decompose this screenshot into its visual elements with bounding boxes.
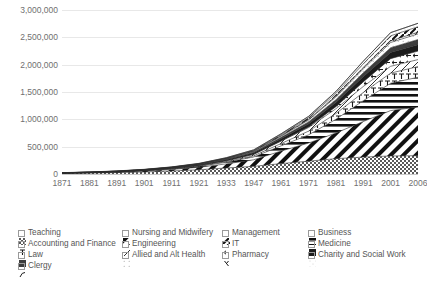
legend-item[interactable]: Management [222, 228, 308, 238]
legend-item[interactable]: Engineering [122, 239, 222, 249]
legend-item[interactable]: IT [222, 239, 308, 249]
legend-swatch-icon [222, 241, 229, 248]
legend-swatch-icon [18, 230, 25, 237]
legend-swatch-icon [18, 252, 25, 259]
legend-label: IT [232, 239, 239, 249]
x-axis-tick: 2006 [409, 178, 427, 188]
stacked-areas [62, 10, 418, 174]
legend-column: BusinessMedicineCharity and Social Work [308, 228, 412, 261]
legend-label: Pharmacy [232, 250, 269, 260]
legend-item[interactable]: Teaching [18, 228, 122, 238]
legend-swatch-icon [308, 241, 315, 248]
x-axis-tick: 1947 [244, 178, 263, 188]
legend-label: Engineering [132, 239, 176, 249]
chart-legend: TeachingAccounting and FinanceLawClergyN… [18, 228, 418, 288]
y-axis-tick: 3,000,000 [20, 6, 58, 15]
legend-label: Medicine [318, 239, 351, 249]
legend-label: Business [318, 228, 351, 238]
x-axis-tick: 1901 [135, 178, 154, 188]
legend-item[interactable]: Medicine [308, 239, 412, 249]
legend-item[interactable]: Business [308, 228, 412, 238]
x-axis-tick: 1933 [217, 178, 236, 188]
x-axis-tick: 1991 [354, 178, 373, 188]
legend-item[interactable]: Nursing and Midwifery [122, 228, 222, 238]
x-axis-tick: 1961 [272, 178, 291, 188]
y-axis: 0500,0001,000,0001,500,0002,000,0002,500… [0, 0, 62, 176]
legend-swatch-icon [122, 241, 129, 248]
x-axis-tick: 1911 [162, 178, 180, 188]
y-axis-tick: 2,500,000 [20, 33, 58, 42]
legend-column: TeachingAccounting and FinanceLawClergy [18, 228, 122, 272]
legend-swatch-icon [308, 230, 315, 237]
x-axis: 1871188118911901191119211933194719611971… [62, 178, 418, 194]
legend-item[interactable]: Allied and Alt Health [122, 250, 222, 260]
legend-swatch-icon [122, 230, 129, 237]
legend-item[interactable]: Pharmacy [222, 250, 308, 260]
legend-swatch-icon [308, 252, 315, 259]
legend-label: Management [232, 228, 280, 238]
legend-label: Nursing and Midwifery [132, 228, 213, 238]
legend-swatch-icon [18, 241, 25, 248]
legend-label: Law [28, 250, 43, 260]
legend-column: Nursing and MidwiferyEngineeringAllied a… [122, 228, 222, 261]
x-axis-tick: 1921 [189, 178, 208, 188]
legend-swatch-icon [222, 230, 229, 237]
plot-area [62, 10, 418, 174]
plot-wrapper: 0500,0001,000,0001,500,0002,000,0002,500… [0, 0, 424, 196]
y-axis-tick: 1,000,000 [20, 115, 58, 124]
legend-item[interactable]: Law [18, 250, 122, 260]
axis-baseline [62, 174, 418, 175]
area-bands [62, 23, 418, 174]
legend-label: Accounting and Finance [28, 239, 116, 249]
legend-swatch-icon [122, 252, 129, 259]
legend-item[interactable]: Charity and Social Work [308, 250, 412, 260]
legend-item[interactable]: Clergy [18, 261, 122, 271]
y-axis-tick: 500,000 [27, 142, 58, 151]
x-axis-tick: 1971 [299, 178, 318, 188]
legend-swatch-icon [222, 252, 229, 259]
x-axis-tick: 1981 [326, 178, 345, 188]
legend-column: ManagementITPharmacy [222, 228, 308, 261]
legend-label: Clergy [28, 261, 52, 271]
y-axis-tick: 2,000,000 [20, 60, 58, 69]
x-axis-tick: 1891 [107, 178, 126, 188]
legend-swatch-icon [18, 263, 25, 270]
legend-label: Teaching [28, 228, 61, 238]
y-axis-tick: 1,500,000 [20, 88, 58, 97]
x-axis-tick: 2001 [381, 178, 400, 188]
x-axis-tick: 1881 [80, 178, 99, 188]
legend-label: Allied and Alt Health [132, 250, 205, 260]
x-axis-tick: 1871 [53, 178, 72, 188]
legend-item[interactable]: Accounting and Finance [18, 239, 122, 249]
legend-label: Charity and Social Work [318, 250, 406, 260]
